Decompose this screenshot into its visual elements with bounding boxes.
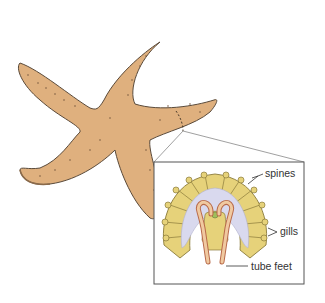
projection-lines (154, 131, 304, 162)
label-tube-feet: tube feet (251, 260, 292, 272)
label-gills: gills (280, 225, 298, 237)
cross-section-inset: spines gills tube feet (154, 162, 304, 284)
label-spines: spines (265, 167, 295, 179)
starfish-diagram: spines gills tube feet (0, 0, 325, 303)
